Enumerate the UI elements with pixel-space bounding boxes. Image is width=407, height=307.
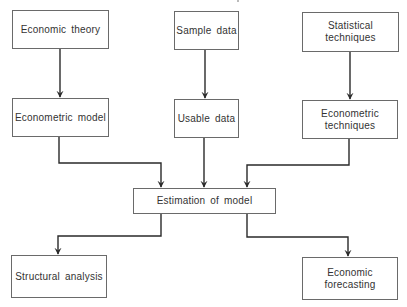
node-label: Estimation of model [157, 195, 253, 207]
node-label: Usable data [178, 113, 236, 125]
arrow-model-to-estimation [59, 137, 161, 187]
node-label: Sample data [176, 25, 236, 37]
node-economic-forecasting: Economic forecasting [302, 257, 398, 300]
node-sample-data: Sample data [174, 11, 239, 50]
node-label: Structural analysis [15, 271, 103, 283]
flowchart-canvas: Economic theory Sample data Statistical … [0, 0, 407, 307]
arrow-estimation-to-forecasting [247, 214, 348, 256]
node-econometric-model: Econometric model [12, 98, 109, 137]
node-usable-data: Usable data [174, 99, 239, 138]
node-label: Statistical techniques [325, 20, 375, 44]
arrow-econ-tech-to-estimation [247, 139, 349, 187]
node-structural-analysis: Structural analysis [11, 255, 107, 298]
node-label: Economic theory [21, 24, 100, 36]
node-label: Economic forecasting [303, 267, 397, 291]
node-econometric-techniques: Econometric techniques [302, 100, 398, 139]
node-estimation-of-model: Estimation of model [133, 188, 276, 214]
arrow-estimation-to-structural [58, 214, 161, 254]
scan-artifact [237, 0, 239, 2]
node-label: Econometric model [15, 112, 106, 124]
node-economic-theory: Economic theory [12, 10, 109, 49]
node-label: Econometric techniques [321, 108, 379, 132]
node-statistical-techniques: Statistical techniques [302, 12, 399, 52]
